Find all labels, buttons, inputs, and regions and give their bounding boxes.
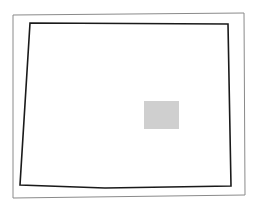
outer-frame <box>13 13 245 198</box>
diagram-svg <box>0 0 257 210</box>
outline-shape <box>20 23 231 188</box>
diagram-canvas <box>0 0 257 210</box>
shaded-region <box>144 101 179 129</box>
